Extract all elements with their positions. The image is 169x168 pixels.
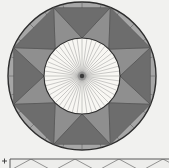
figure-canvas [0, 0, 169, 168]
annulus-triangle-figure [0, 0, 169, 168]
center-dot [80, 74, 84, 78]
